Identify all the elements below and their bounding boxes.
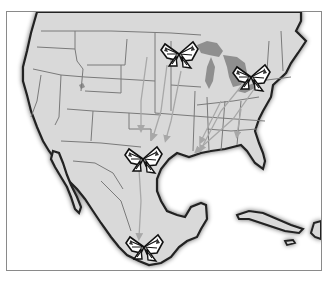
migration-map xyxy=(7,12,321,270)
map-frame: Monarch butterfly migration routes xyxy=(6,11,322,271)
